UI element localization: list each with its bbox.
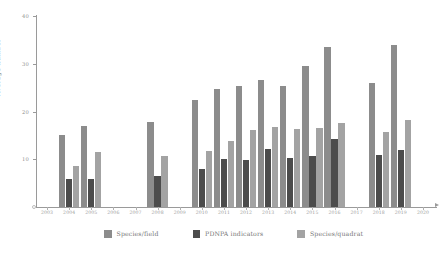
y-axis-title: Average number xyxy=(0,39,2,96)
bar-pdnpa-indicators-2011 xyxy=(221,159,227,207)
bar-species-quadrat-2010 xyxy=(206,151,212,207)
y-tick-label: 30 xyxy=(13,61,29,67)
bar-species-quadrat-2008 xyxy=(161,156,167,207)
legend-item[interactable]: Species/quadrat xyxy=(297,230,363,238)
bar-pdnpa-indicators-2004 xyxy=(66,179,72,207)
bar-species-quadrat-2013 xyxy=(272,127,278,207)
y-tick-label: 40 xyxy=(13,13,29,19)
bar-pdnpa-indicators-2019 xyxy=(398,150,404,207)
legend-label: Species/field xyxy=(117,230,159,237)
bar-pdnpa-indicators-2014 xyxy=(287,158,293,207)
bar-pdnpa-indicators-2010 xyxy=(199,169,205,207)
bar-species-field-2014 xyxy=(280,86,286,207)
bar-species-field-2012 xyxy=(236,86,242,207)
bar-species-field-2005 xyxy=(81,126,87,207)
legend-item[interactable]: PDNPA indicators xyxy=(193,230,264,238)
bar-species-field-2019 xyxy=(391,45,397,207)
bar-species-field-2004 xyxy=(59,135,65,207)
x-axis-line xyxy=(36,207,437,208)
bar-pdnpa-indicators-2005 xyxy=(88,179,94,207)
legend-label: Species/quadrat xyxy=(310,230,363,237)
bar-species-field-2016 xyxy=(324,47,330,207)
bar-chart: Average number 40302010 2003200420052006… xyxy=(0,0,444,255)
bar-pdnpa-indicators-2012 xyxy=(243,160,249,207)
bar-pdnpa-indicators-2016 xyxy=(331,139,337,207)
legend-item[interactable]: Species/field xyxy=(104,230,159,238)
y-tick-label: 10 xyxy=(13,156,29,162)
bar-species-quadrat-2019 xyxy=(405,120,411,207)
bar-species-field-2013 xyxy=(258,80,264,207)
bar-species-field-2008 xyxy=(147,122,153,207)
bar-species-field-2018 xyxy=(369,83,375,207)
bar-species-field-2010 xyxy=(192,100,198,207)
bar-species-field-2015 xyxy=(302,66,308,207)
bar-species-quadrat-2015 xyxy=(316,128,322,207)
chart-legend: Species/fieldPDNPA indicatorsSpecies/qua… xyxy=(104,230,397,238)
bar-pdnpa-indicators-2008 xyxy=(154,176,160,207)
bars-layer xyxy=(36,16,434,207)
bar-species-quadrat-2012 xyxy=(250,130,256,207)
bar-species-quadrat-2018 xyxy=(383,132,389,207)
plot-area xyxy=(36,16,434,207)
bar-pdnpa-indicators-2015 xyxy=(309,156,315,207)
bar-species-quadrat-2014 xyxy=(294,129,300,207)
x-tick-label: 2020 xyxy=(410,210,436,215)
bar-pdnpa-indicators-2018 xyxy=(376,155,382,207)
legend-swatch-icon xyxy=(297,230,305,238)
x-axis-arrow-icon xyxy=(435,203,439,207)
bar-species-quadrat-2005 xyxy=(95,152,101,207)
legend-swatch-icon xyxy=(104,230,112,238)
legend-label: PDNPA indicators xyxy=(205,230,263,237)
bar-pdnpa-indicators-2013 xyxy=(265,149,271,207)
bar-species-quadrat-2016 xyxy=(338,123,344,207)
bar-species-quadrat-2004 xyxy=(73,166,79,207)
bar-species-quadrat-2011 xyxy=(228,141,234,207)
legend-swatch-icon xyxy=(193,230,201,238)
bar-species-field-2011 xyxy=(214,89,220,207)
y-tick-label: 20 xyxy=(13,109,29,115)
